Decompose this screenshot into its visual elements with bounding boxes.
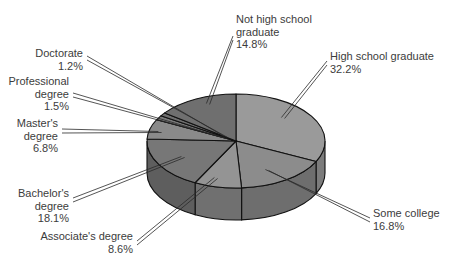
leader-line [206, 36, 233, 104]
label-text: Professional [8, 75, 69, 88]
label-prof: Professionaldegree1.5% [8, 75, 69, 113]
label-text: Some college [373, 207, 440, 220]
label-nhs: Not high schoolgraduate14.8% [236, 13, 312, 51]
label-text: degree [8, 88, 69, 101]
label-text: Doctorate [35, 47, 83, 60]
label-text: Bachelor's [18, 187, 69, 200]
label-hs: High school graduate32.2% [330, 50, 434, 75]
label-percent: 1.5% [8, 100, 69, 113]
label-text: graduate [236, 26, 312, 39]
label-bach: Bachelor'sdegree18.1% [18, 187, 69, 225]
leader-line [62, 129, 158, 132]
label-percent: 8.6% [40, 243, 133, 256]
label-mast: Master'sdegree6.8% [17, 117, 58, 155]
label-text: Associate's degree [40, 230, 133, 243]
label-doct: Doctorate1.2% [35, 47, 83, 72]
label-percent: 1.2% [35, 60, 83, 73]
leader-line [281, 61, 327, 118]
label-text: Not high school [236, 13, 312, 26]
label-percent: 32.2% [330, 63, 434, 76]
label-text: Master's [17, 117, 58, 130]
label-text: degree [18, 200, 69, 213]
label-text: degree [17, 130, 58, 143]
label-percent: 18.1% [18, 212, 69, 225]
label-percent: 6.8% [17, 142, 58, 155]
label-assoc: Associate's degree8.6% [40, 230, 133, 255]
label-percent: 16.8% [373, 220, 440, 233]
label-percent: 14.8% [236, 38, 312, 51]
leader-line [62, 132, 162, 133]
label-sc: Some college16.8% [373, 207, 440, 232]
leader-line [285, 65, 327, 118]
label-text: High school graduate [330, 50, 434, 63]
